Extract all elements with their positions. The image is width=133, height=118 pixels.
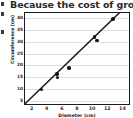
margin-mark xyxy=(1,2,4,6)
y-tick-label: 15 xyxy=(13,74,23,79)
question-text: Because the cost of grocerie xyxy=(10,0,133,10)
y-tick-label: 20 xyxy=(13,62,23,67)
data-point xyxy=(67,66,71,70)
x-tick-label: 8 xyxy=(71,106,83,112)
x-tick-label: 4 xyxy=(41,106,53,112)
x-tick-label: 14 xyxy=(116,106,128,112)
y-tick-label: 30 xyxy=(13,38,23,43)
y-tick-label: 40 xyxy=(13,14,23,19)
plot-area xyxy=(24,12,130,105)
x-tick-label: 12 xyxy=(101,106,113,112)
data-point xyxy=(111,17,115,21)
x-tick-label: 2 xyxy=(26,106,38,112)
y-tick-label: 5 xyxy=(13,98,23,103)
y-tick-label: 25 xyxy=(13,50,23,55)
data-point xyxy=(95,39,99,43)
scatter-plot-figure: Circumference (cm) 510152025303540 24681… xyxy=(0,10,133,118)
y-tick-label: 10 xyxy=(13,86,23,91)
y-axis-tick-labels: 510152025303540 xyxy=(13,10,23,105)
x-tick-label: 6 xyxy=(56,106,68,112)
x-axis-title: Diameter (cm) xyxy=(24,113,130,118)
y-tick-label: 35 xyxy=(13,26,23,31)
x-tick-label: 10 xyxy=(86,106,98,112)
